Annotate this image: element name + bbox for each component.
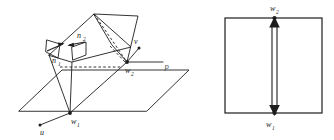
ray-w1-to-u xyxy=(40,113,70,125)
rectangle-outline xyxy=(225,18,322,113)
point-w2-dot xyxy=(125,60,129,64)
figure-canvas: n 1 n 2 w 1 w 2 u v P xyxy=(0,0,334,140)
right-panel-group: w 2 w 1 xyxy=(225,4,322,131)
label-n1-subscript: 1 xyxy=(58,61,61,67)
label-w2-top-subscript: 2 xyxy=(276,9,279,15)
hidden-edge-short xyxy=(110,46,125,62)
label-n2: n xyxy=(77,31,81,40)
point-w1-bottom-dot xyxy=(272,111,276,115)
point-v-dot xyxy=(138,47,141,50)
label-v: v xyxy=(134,37,138,46)
left-panel-group: n 1 n 2 w 1 w 2 u v P xyxy=(19,14,189,137)
label-w2-subscript: 2 xyxy=(131,71,134,77)
upper-plane-left-sheet xyxy=(49,14,131,62)
point-w2-top-dot xyxy=(272,16,276,20)
point-w1-dot xyxy=(68,111,72,115)
label-w1-bottom-subscript: 1 xyxy=(272,125,275,131)
label-n2-subscript: 2 xyxy=(83,36,86,42)
label-plane-p: P xyxy=(163,64,169,73)
horizontal-plane-outline xyxy=(19,70,189,111)
label-u: u xyxy=(40,128,44,137)
label-n1: n xyxy=(52,56,56,65)
n2-base-quad xyxy=(72,42,86,60)
figure-container: n 1 n 2 w 1 w 2 u v P xyxy=(0,0,334,140)
point-u-dot xyxy=(39,124,42,127)
label-w1-subscript: 1 xyxy=(77,122,80,128)
